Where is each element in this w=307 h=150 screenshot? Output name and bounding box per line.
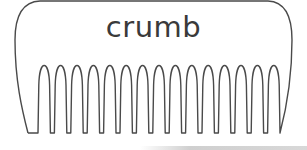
bottom-shadow: [140, 146, 307, 150]
word-label: crumb: [0, 10, 307, 44]
